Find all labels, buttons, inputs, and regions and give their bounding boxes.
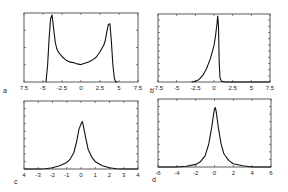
x-tick-label: 7.5 (266, 85, 275, 91)
x-tick-label: -7.5 (153, 85, 164, 91)
curve-c (24, 122, 138, 170)
x-tick-label: -5 (40, 85, 46, 91)
x-tick-label: 7.5 (134, 85, 143, 91)
curve-b (192, 16, 270, 82)
panel-c: 4-3-2-101234c (14, 101, 140, 185)
x-tick-label: 4 (136, 172, 140, 178)
x-tick-label: 4 (22, 172, 26, 178)
x-tick-label: 6 (269, 170, 273, 176)
curve-a (46, 15, 118, 82)
x-tick-label: 0 (79, 172, 83, 178)
curve-d (158, 108, 271, 167)
x-tick-label: 2 (232, 170, 236, 176)
x-tick-label: -6 (155, 170, 161, 176)
x-tick-label: 0 (213, 170, 217, 176)
panel-letter: d (152, 176, 156, 183)
x-tick-label: 2.5 (96, 85, 105, 91)
x-tick-label: -2.5 (57, 85, 68, 91)
panel-letter: c (14, 178, 18, 185)
x-tick-label: -3 (36, 172, 42, 178)
plot-frame (24, 101, 138, 169)
x-tick-label: -5 (174, 85, 180, 91)
figure-2x2-panels: 7.5-5-2.502.557.5a -7.5-5-2.502.557.5b 4… (0, 0, 288, 192)
x-tick-label: 0 (212, 85, 216, 91)
x-tick-label: 4 (250, 170, 254, 176)
x-tick-label: -2.5 (190, 85, 201, 91)
panel-letter: b (150, 87, 154, 94)
panel-letter: a (3, 87, 7, 94)
panel-b: -7.5-5-2.502.557.5b (150, 14, 275, 94)
panel-d: -6-4-20246d (152, 99, 273, 183)
x-tick-label: 7.5 (20, 85, 29, 91)
x-tick-label: -1 (64, 172, 70, 178)
x-tick-label: 2 (108, 172, 112, 178)
plot-frame (158, 14, 270, 82)
x-tick-label: 2.5 (228, 85, 237, 91)
x-tick-label: -2 (193, 170, 199, 176)
panel-a: 7.5-5-2.502.557.5a (3, 13, 143, 94)
x-tick-label: 5 (117, 85, 121, 91)
x-tick-label: -4 (174, 170, 180, 176)
x-tick-label: 3 (122, 172, 126, 178)
x-tick-label: -2 (50, 172, 56, 178)
x-tick-label: 0 (79, 85, 83, 91)
plot-frame (24, 13, 138, 82)
x-tick-label: 1 (94, 172, 98, 178)
x-tick-label: 5 (250, 85, 254, 91)
